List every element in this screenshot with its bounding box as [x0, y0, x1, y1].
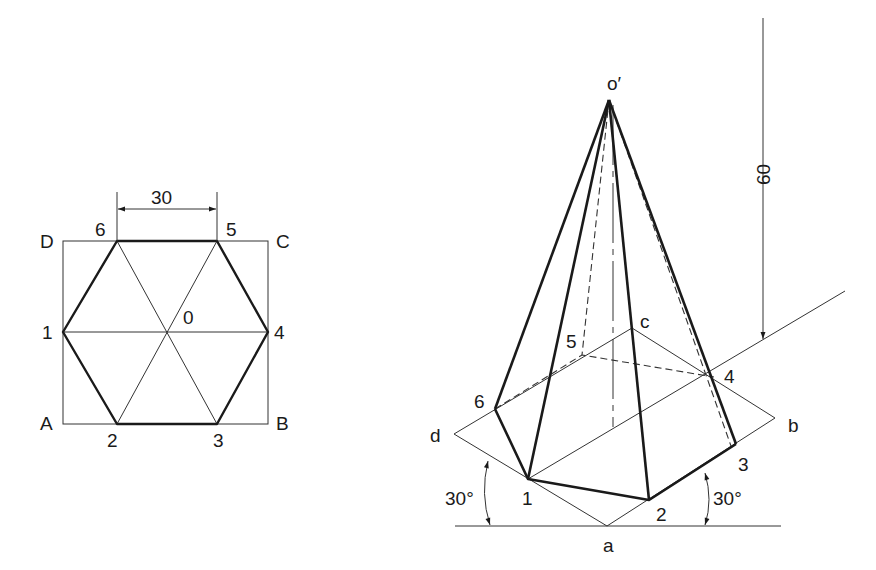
edge-o-2	[609, 100, 649, 500]
corner-label-A: A	[40, 413, 53, 434]
isometric-view: 60 30° 30° o′ a b c d 1 2 3 4 5 6	[430, 18, 845, 556]
center-label-0: 0	[183, 307, 194, 328]
edge-o-3	[609, 100, 736, 444]
corner-label-D: D	[40, 231, 54, 252]
plan-view: 30 D C A B 6 5 1 4 2 3 0	[40, 187, 290, 451]
angle-label-right: 30°	[713, 488, 742, 509]
apex-label: o′	[607, 73, 622, 94]
vertex-label-6: 6	[95, 219, 106, 240]
vertex-label-4: 4	[724, 366, 735, 387]
corner-label-a: a	[603, 535, 614, 556]
vertex-label-6: 6	[474, 391, 485, 412]
corner-label-C: C	[276, 231, 290, 252]
vertex-label-5: 5	[566, 331, 577, 352]
drawing-canvas: 30 D C A B 6 5 1 4 2 3 0	[0, 0, 876, 570]
vertex-label-1: 1	[522, 488, 533, 509]
corner-label-c: c	[640, 311, 650, 332]
angle-arc-right	[705, 473, 709, 525]
angle-label-left: 30°	[445, 488, 474, 509]
corner-label-b: b	[788, 415, 799, 436]
vertex-label-3: 3	[738, 454, 749, 475]
vertex-label-2: 2	[656, 504, 667, 525]
vertex-label-2: 2	[107, 430, 118, 451]
height-dimension-label: 60	[753, 164, 774, 185]
corner-label-B: B	[276, 413, 289, 434]
dimension-label-30: 30	[151, 187, 172, 208]
visible-base-edges	[495, 409, 736, 500]
vertex-label-1: 1	[42, 322, 53, 343]
corner-label-d: d	[430, 425, 441, 446]
hidden-base-edges	[495, 355, 714, 409]
vertex-label-4: 4	[274, 322, 285, 343]
vertex-label-3: 3	[213, 430, 224, 451]
vertex-label-5: 5	[226, 219, 237, 240]
angle-arc-left	[484, 461, 490, 525]
